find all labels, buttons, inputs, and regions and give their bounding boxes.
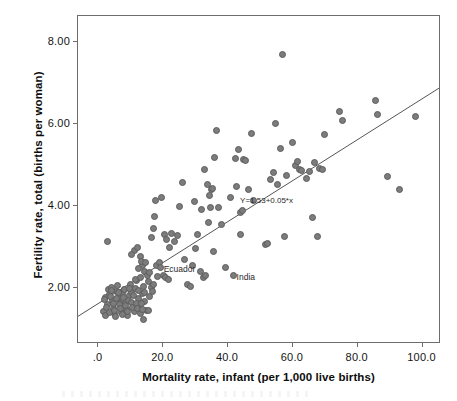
data-point xyxy=(294,158,301,165)
data-point xyxy=(207,204,214,211)
data-point xyxy=(209,185,216,192)
x-axis-tick xyxy=(162,342,163,347)
data-point xyxy=(191,198,198,205)
data-point xyxy=(215,204,222,211)
data-point xyxy=(279,51,286,58)
data-point xyxy=(181,256,188,263)
data-point xyxy=(314,233,321,240)
data-point xyxy=(187,283,194,290)
data-point xyxy=(336,108,343,115)
data-point xyxy=(150,225,157,232)
data-point xyxy=(134,244,141,251)
data-point xyxy=(274,181,281,188)
y-axis-tick-label: 6.00 xyxy=(48,117,70,129)
data-point xyxy=(245,186,252,193)
y-axis-tick-label: 8.00 xyxy=(48,35,70,47)
data-point xyxy=(270,169,277,176)
data-point xyxy=(176,203,183,210)
x-axis-tick xyxy=(292,342,293,347)
x-axis-tick-label: 40.0 xyxy=(216,351,238,363)
x-axis-tick xyxy=(227,342,228,347)
regression-equation-label: Y=1.53+0.05*x xyxy=(240,196,293,205)
data-point xyxy=(248,130,255,137)
data-point xyxy=(384,173,391,180)
data-point xyxy=(202,272,209,279)
x-axis-tick-label: 60.0 xyxy=(281,351,303,363)
data-point xyxy=(237,231,244,238)
x-axis-tick-label: .0 xyxy=(93,351,103,363)
data-point xyxy=(264,240,271,247)
data-point xyxy=(149,288,156,295)
data-point xyxy=(205,219,212,226)
data-point xyxy=(166,244,173,251)
y-axis-tick-label: 2.00 xyxy=(48,281,70,293)
data-point xyxy=(321,131,328,138)
data-point xyxy=(232,155,239,162)
data-point xyxy=(319,166,326,173)
data-point xyxy=(298,167,305,174)
data-point xyxy=(192,245,199,252)
data-point xyxy=(211,154,218,161)
y-axis-tick-label: 4.00 xyxy=(48,199,70,211)
data-point xyxy=(148,234,155,241)
data-point xyxy=(239,207,246,214)
data-point xyxy=(289,139,296,146)
data-point xyxy=(281,233,288,240)
data-point xyxy=(267,176,274,183)
data-point xyxy=(372,97,379,104)
data-point xyxy=(339,117,346,124)
data-point xyxy=(142,259,149,266)
data-point xyxy=(137,274,144,281)
data-point xyxy=(145,307,152,314)
data-point xyxy=(154,273,161,280)
x-axis-tick-label: 20.0 xyxy=(151,351,173,363)
data-point xyxy=(171,238,178,245)
data-point xyxy=(194,231,201,238)
x-axis-tick xyxy=(97,342,98,347)
data-point xyxy=(374,111,381,118)
data-point xyxy=(235,146,242,153)
data-point xyxy=(201,166,208,173)
data-point xyxy=(242,157,249,164)
point-label-ecuador: Ecuador xyxy=(164,264,196,274)
data-point xyxy=(128,251,135,258)
x-axis-title: Mortality rate, infant (per 1,000 live b… xyxy=(77,371,440,383)
data-point xyxy=(179,179,186,186)
point-label-india: India xyxy=(237,272,255,282)
data-point xyxy=(158,194,165,201)
page-scan-artifact xyxy=(62,391,312,397)
data-point xyxy=(396,186,403,193)
plot-area: 2.004.006.008.00 .020.040.060.080.0100.0… xyxy=(77,15,440,343)
data-point xyxy=(227,194,234,201)
data-point xyxy=(206,192,213,199)
data-point xyxy=(283,172,290,179)
data-point xyxy=(218,221,225,228)
data-point xyxy=(198,206,205,213)
x-axis-tick-label: 100.0 xyxy=(407,351,436,363)
data-point xyxy=(222,264,229,271)
data-point xyxy=(303,175,310,182)
x-axis-tick xyxy=(357,342,358,347)
data-point xyxy=(165,276,172,283)
data-point xyxy=(272,120,279,127)
data-point xyxy=(412,113,419,120)
data-point xyxy=(146,269,153,276)
data-point xyxy=(104,238,111,245)
data-point xyxy=(210,248,217,255)
x-axis-tick xyxy=(422,342,423,347)
data-point xyxy=(174,232,181,239)
data-point xyxy=(151,213,158,220)
data-point xyxy=(277,145,284,152)
data-canvas: Y=1.53+0.05*xEcuadorIndia xyxy=(78,16,439,342)
data-point xyxy=(233,183,240,190)
data-point xyxy=(306,168,313,175)
scatter-plot-figure: 2.004.006.008.00 .020.040.060.080.0100.0… xyxy=(0,0,457,401)
data-point xyxy=(309,214,316,221)
data-point xyxy=(213,127,220,134)
x-axis-tick-label: 80.0 xyxy=(346,351,368,363)
data-point xyxy=(140,316,147,323)
y-axis-title: Fertility rate, total (births per woman) xyxy=(32,25,44,325)
